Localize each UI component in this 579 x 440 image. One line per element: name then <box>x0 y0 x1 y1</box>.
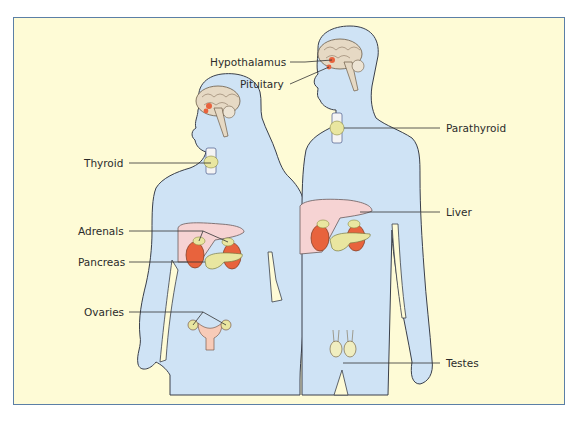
male-adrenal-right <box>348 220 360 228</box>
male-testis-right <box>344 341 356 357</box>
label-adrenals: Adrenals <box>78 225 124 237</box>
label-parathyroid: Parathyroid <box>446 122 506 134</box>
label-testes: Testes <box>446 357 479 369</box>
male-figure <box>300 26 432 395</box>
male-testis-left <box>330 341 342 357</box>
male-adrenal-left <box>317 220 329 228</box>
label-thyroid: Thyroid <box>84 157 123 169</box>
female-figure <box>138 74 304 395</box>
male-parathyroid <box>330 121 344 135</box>
female-hypothalamus <box>206 103 212 109</box>
label-hypothalamus: Hypothalamus <box>210 56 286 68</box>
label-ovaries: Ovaries <box>84 306 124 318</box>
female-pituitary <box>204 109 209 114</box>
male-kidney-left <box>311 225 329 251</box>
label-pancreas: Pancreas <box>78 256 125 268</box>
endocrine-illustration <box>0 0 579 440</box>
female-kidney-left <box>186 242 204 268</box>
female-thyroid <box>204 156 218 168</box>
female-cerebellum <box>223 106 235 118</box>
label-pituitary: Pituitary <box>240 78 284 90</box>
label-liver: Liver <box>446 206 472 218</box>
male-cerebellum <box>352 60 364 72</box>
